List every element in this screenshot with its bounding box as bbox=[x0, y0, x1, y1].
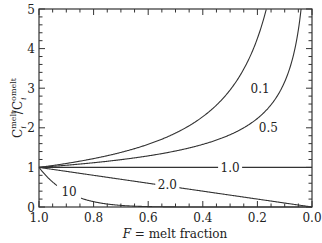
curve-label: 1.0 bbox=[221, 161, 240, 175]
x-tick-label: 0.4 bbox=[193, 211, 212, 225]
y-tick-label: 5 bbox=[27, 3, 35, 17]
y-axis-title: Cmelti/Comelti bbox=[9, 77, 28, 138]
y-tick-label: 4 bbox=[27, 42, 35, 56]
x-tick-label: 0.6 bbox=[139, 211, 158, 225]
y-tick-label: 3 bbox=[27, 82, 35, 96]
curve-D-0.1 bbox=[39, 9, 266, 167]
y-tick-labels: 012345 bbox=[27, 3, 35, 215]
x-tick-label: 0.2 bbox=[248, 211, 267, 225]
y-tick-label: 2 bbox=[27, 121, 35, 135]
chart-svg: 0.10.51.02.010 1.00.80.60.40.20.0 012345… bbox=[0, 0, 322, 243]
x-tick-labels: 1.00.80.60.40.20.0 bbox=[29, 211, 321, 225]
x-tick-label: 0.0 bbox=[302, 211, 321, 225]
x-axis-title: F = melt fraction bbox=[122, 227, 228, 241]
curve-label: 10 bbox=[61, 185, 76, 199]
y-tick-label: 0 bbox=[27, 201, 35, 215]
curve-label: 0.1 bbox=[251, 82, 270, 96]
curve-labels: 0.10.51.02.010 bbox=[57, 81, 280, 199]
curve-label: 0.5 bbox=[259, 121, 278, 135]
x-tick-label: 0.8 bbox=[84, 211, 103, 225]
chart: 0.10.51.02.010 1.00.80.60.40.20.0 012345… bbox=[0, 0, 322, 243]
svg-text:Cmelti/Comelti: Cmelti/Comelti bbox=[9, 77, 28, 138]
curve-label: 2.0 bbox=[158, 178, 177, 192]
y-tick-label: 1 bbox=[27, 161, 35, 175]
